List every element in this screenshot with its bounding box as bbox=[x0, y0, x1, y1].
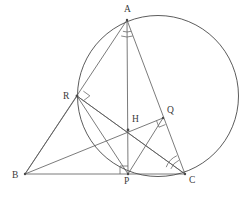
vertex-label-C: C bbox=[189, 175, 195, 185]
segment-PQ bbox=[128, 118, 163, 174]
vertex-dot-Q bbox=[162, 117, 164, 119]
vertex-labels-group: A R Q H B P C bbox=[12, 4, 195, 186]
altitude-BQ bbox=[25, 118, 163, 174]
vertex-label-Q: Q bbox=[167, 105, 174, 115]
segments-group bbox=[25, 20, 185, 174]
segment-RB bbox=[25, 96, 77, 174]
geometry-canvas: A R Q H B P C bbox=[0, 0, 247, 199]
vertex-label-P: P bbox=[124, 176, 129, 186]
vertex-label-R: R bbox=[63, 91, 70, 101]
right-angle-marks-group bbox=[83, 91, 165, 174]
vertex-dot-P bbox=[127, 173, 129, 175]
vertex-dot-B bbox=[24, 173, 26, 175]
vertex-dot-R bbox=[76, 95, 79, 98]
vertex-dot-A bbox=[126, 19, 128, 21]
circumcircle bbox=[78, 16, 239, 177]
vertex-label-H: H bbox=[132, 114, 139, 124]
vertex-label-A: A bbox=[124, 4, 131, 14]
right-angle-at-R bbox=[83, 91, 89, 101]
geometry-diagram: A R Q H B P C bbox=[0, 0, 247, 199]
segment-AC bbox=[127, 20, 185, 174]
angle-arcs-group bbox=[121, 31, 179, 169]
vertex-dot-H bbox=[127, 129, 130, 132]
altitude-AP bbox=[127, 20, 128, 174]
vertex-label-B: B bbox=[12, 170, 18, 180]
vertex-dots-group bbox=[24, 19, 186, 175]
vertex-dot-C bbox=[184, 173, 186, 175]
